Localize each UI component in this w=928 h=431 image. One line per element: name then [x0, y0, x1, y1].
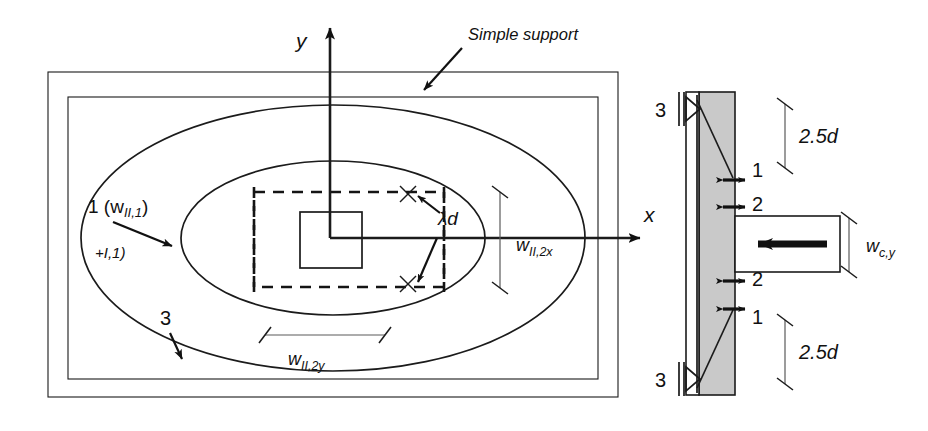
yield-1-prefix: 1 (w — [88, 196, 124, 217]
yield-line-1-leader — [113, 222, 172, 246]
scan-artifact-label: +I,1) — [95, 244, 125, 261]
lambda-d-label: λd — [437, 208, 459, 229]
figure-root: y x Simple support 1 (wII,1) +I,1) 3 λd — [0, 0, 928, 431]
simple-support-leader — [424, 48, 462, 90]
dimension-2-5d-bottom: 2.5d — [777, 314, 839, 390]
dim-2-5d-top-label: 2.5d — [798, 125, 839, 147]
plan-view-group: y x Simple support 1 (wII,1) +I,1) 3 λd — [48, 25, 656, 397]
axis-y-label: y — [294, 29, 308, 52]
dim-wcy-sub: c,y — [879, 246, 896, 260]
dim-2-5d-bottom-label: 2.5d — [798, 341, 839, 363]
dimension-w-II-2x: wII,2x — [492, 186, 553, 294]
yield-line-3-leader — [170, 333, 182, 359]
support-bottom-label: 3 — [655, 369, 666, 391]
support-top-label: 3 — [655, 99, 666, 121]
yield-1-subscript: II,1 — [124, 205, 142, 220]
dim-w2y-main: w — [288, 349, 302, 369]
dimension-w-II-2y: wII,2y — [259, 327, 391, 373]
dim-wcy-main: w — [866, 236, 880, 256]
lambda-d-leader-lower — [418, 238, 437, 282]
dim-w2y-sub: II,2y — [301, 359, 325, 373]
dim-w2x-main: w — [516, 235, 530, 255]
engineering-diagram: y x Simple support 1 (wII,1) +I,1) 3 λd — [0, 0, 928, 431]
crack-1-top-label: 1 — [752, 159, 763, 181]
dimension-2-5d-top: 2.5d — [777, 98, 839, 174]
dim-w2x-sub: II,2x — [529, 245, 553, 259]
svg-text:wc,y: wc,y — [866, 236, 896, 260]
yield-line-1-label-group: 1 (wII,1) — [88, 196, 148, 220]
lambda-d-tick-lower — [400, 276, 416, 292]
simple-support-label: Simple support — [468, 25, 579, 43]
lambda-d-tick-upper — [400, 186, 416, 202]
yield-1-suffix: ) — [142, 196, 148, 217]
yield-line-3-label: 3 — [160, 307, 171, 329]
dimension-w-c-y: wc,y — [841, 212, 896, 278]
lambda-d-leader-upper — [418, 196, 440, 213]
crack-2-top-label: 2 — [752, 193, 763, 215]
slab-section-body — [699, 92, 735, 395]
section-view-group: 3 3 1 2 2 1 — [655, 92, 896, 396]
axis-x-label: x — [643, 203, 656, 226]
crack-1-bottom-label: 1 — [752, 306, 763, 328]
svg-text:1 (wII,1): 1 (wII,1) — [88, 196, 148, 220]
